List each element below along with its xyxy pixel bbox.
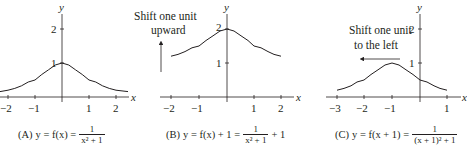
panel-a-caption: (A) y = f(x) = 1 x² + 1 bbox=[18, 124, 105, 145]
panel-c-caption-equation: y = f(x + 1) = bbox=[352, 129, 409, 140]
panel-c-annotation-line1: Shift one unit bbox=[349, 24, 412, 36]
panel-c-y-tick: 1 bbox=[409, 57, 415, 69]
panel-a-caption-label: (A) bbox=[18, 129, 33, 140]
panel-b-y-tick: 1 bbox=[216, 57, 222, 69]
panel-c-x-tick: −2 bbox=[356, 102, 368, 114]
panel-b-x-tick: −1 bbox=[191, 102, 203, 114]
fraction-denominator: (x + 1)² + 1 bbox=[412, 134, 457, 145]
panel-a-y-axis-label: y bbox=[58, 1, 64, 13]
panel-b-caption-suffix: + 1 bbox=[271, 129, 285, 140]
panel-b-curve bbox=[171, 29, 281, 56]
panel-b-y-axis-label: y bbox=[223, 1, 229, 13]
panel-b-annotation-line1: Shift one unit bbox=[134, 10, 197, 22]
fraction-numerator: 1 bbox=[431, 124, 440, 134]
panel-c-curve bbox=[337, 63, 447, 90]
panel-c-fraction: 1 (x + 1)² + 1 bbox=[412, 124, 457, 145]
panel-c-caption: (C) y = f(x + 1) = 1 (x + 1)² + 1 bbox=[335, 124, 457, 145]
fraction-numerator: 1 bbox=[88, 124, 97, 134]
panel-a-x-tick: 2 bbox=[113, 102, 119, 114]
panel-b-caption: (B) y = f(x) + 1 = 1 x² + 1 + 1 bbox=[166, 124, 285, 145]
panel-a-x-tick: −1 bbox=[28, 102, 40, 114]
panel-a-y-tick: 2 bbox=[51, 23, 57, 35]
panel-b-plot: −2 −1 1 2 1 2 x y Shift one unit upward bbox=[134, 1, 301, 114]
panel-b-x-axis-label: x bbox=[295, 91, 301, 103]
panel-a-x-tick: 1 bbox=[86, 102, 92, 114]
panel-c-annotation-line2: to the left bbox=[354, 39, 399, 51]
panel-c-x-tick: −3 bbox=[329, 102, 341, 114]
panel-b-caption-label: (B) bbox=[166, 129, 180, 140]
panel-c-plot: −3 −2 −1 1 1 2 x y Shift one unit to the… bbox=[326, 1, 467, 114]
panel-b-fraction: 1 x² + 1 bbox=[243, 124, 268, 145]
fraction-denominator: x² + 1 bbox=[79, 134, 104, 145]
fraction-denominator: x² + 1 bbox=[243, 134, 268, 145]
panel-c-caption-label: (C) bbox=[335, 129, 349, 140]
panel-a-caption-equation: y = f(x) = bbox=[36, 129, 77, 140]
fraction-numerator: 1 bbox=[252, 124, 261, 134]
panel-b-x-tick: 2 bbox=[278, 102, 284, 114]
panel-a-plot: −2 −1 1 2 1 2 x y bbox=[0, 1, 136, 114]
panel-b-x-tick: 1 bbox=[251, 102, 257, 114]
panel-a-x-tick: −2 bbox=[0, 102, 12, 114]
panel-c-x-axis-label: x bbox=[461, 91, 467, 103]
panel-a-fraction: 1 x² + 1 bbox=[79, 124, 104, 145]
panel-b-x-tick: −2 bbox=[163, 102, 175, 114]
panel-a-x-axis-label: x bbox=[130, 91, 136, 103]
panel-c-x-tick: −1 bbox=[384, 102, 396, 114]
panel-b-caption-equation: y = f(x) + 1 = bbox=[183, 129, 240, 140]
panel-a-curve bbox=[0, 63, 128, 92]
panel-b-annotation-line2: upward bbox=[151, 24, 186, 37]
panel-c-x-tick: 1 bbox=[444, 102, 450, 114]
panel-c-y-axis-label: y bbox=[416, 1, 422, 13]
